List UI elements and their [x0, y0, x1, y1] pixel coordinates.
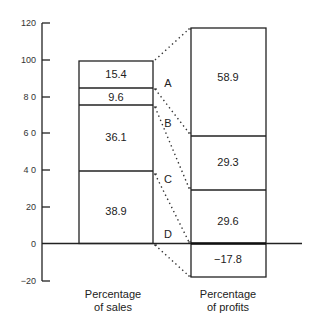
profits-bar: 58.9 29.3 29.6 −17.8	[191, 28, 266, 277]
dotted-connectors	[155, 29, 189, 276]
sales-title-line1: Percentage	[85, 288, 141, 300]
profits-segment-c-value: 29.6	[217, 215, 238, 227]
y-axis: 120 100 8 0 6 0 4 0 20 0 −20	[21, 18, 50, 286]
sales-segment-d-value: 38.9	[105, 205, 126, 217]
tick-label: 8 0	[23, 92, 36, 102]
sales-segment-b-value: 9.6	[108, 91, 123, 103]
bracket-marks	[154, 29, 191, 276]
profits-title-line1: Percentage	[200, 288, 256, 300]
segment-letter-c: C	[164, 173, 172, 185]
sales-segment-c-value: 36.1	[105, 131, 126, 143]
segment-letter-a: A	[164, 77, 172, 89]
profits-segment-b-value: 29.3	[217, 156, 238, 168]
sales-bar: 15.4 9.6 36.1 38.9	[79, 61, 153, 244]
profits-segment-d-value: −17.8	[214, 253, 242, 265]
tick-label: 0	[31, 239, 36, 249]
segment-letter-d: D	[164, 228, 172, 240]
tick-label: −20	[21, 276, 36, 286]
tick-label: 4 0	[23, 165, 36, 175]
tick-label: 100	[21, 55, 36, 65]
sales-title-line2: of sales	[94, 301, 132, 313]
tick-label: 20	[26, 202, 36, 212]
tick-label: 120	[21, 18, 36, 28]
segment-letter-b: B	[164, 117, 171, 129]
profits-title-line2: of profits	[207, 301, 250, 313]
sales-segment-a-value: 15.4	[105, 68, 126, 80]
tick-label: 6 0	[23, 128, 36, 138]
profits-segment-a-value: 58.9	[217, 71, 238, 83]
chart-canvas: 120 100 8 0 6 0 4 0 20 0 −20 15.4 9.6 36…	[0, 0, 319, 329]
